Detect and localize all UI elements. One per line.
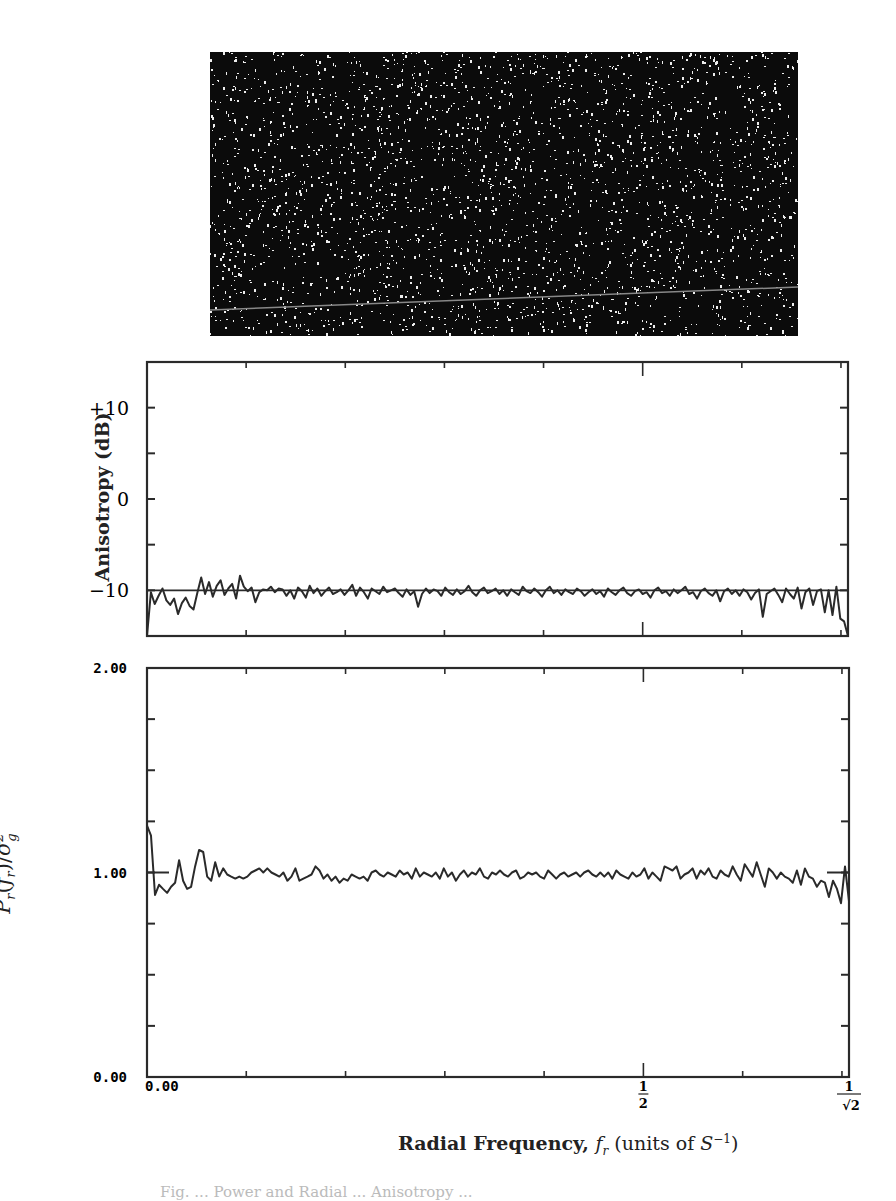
data-line <box>147 826 849 904</box>
y-tick-label: 0.00 <box>93 1069 127 1085</box>
data-line <box>147 576 848 636</box>
x-axis-label: Radial Frequency, fr (units of S−1) <box>398 1132 738 1158</box>
figure-caption: Fig. ... Power and Radial ... Anisotropy… <box>160 1183 473 1201</box>
y-tick-label: 1.00 <box>93 865 127 881</box>
anisotropy-chart: +100−10 <box>0 340 896 650</box>
noise-dots <box>210 52 798 336</box>
x-tick-label-inv-sqrt2: 1 <box>844 1079 853 1094</box>
plot-frame <box>147 362 848 636</box>
y-tick-label: −10 <box>89 579 129 601</box>
y-tick-label: 2.00 <box>93 660 127 676</box>
noise-texture <box>210 52 798 336</box>
y-tick-label: 0 <box>117 488 129 510</box>
noise-texture-image <box>210 52 798 336</box>
power-chart: 2.001.000.000.00121√2 <box>0 650 896 1120</box>
x-tick-label-zero: 0.00 <box>145 1078 179 1094</box>
svg-text:2: 2 <box>639 1096 648 1111</box>
x-tick-label-half: 1 <box>639 1079 648 1094</box>
svg-text:√2: √2 <box>842 1098 860 1113</box>
y-tick-label: +10 <box>89 397 129 419</box>
